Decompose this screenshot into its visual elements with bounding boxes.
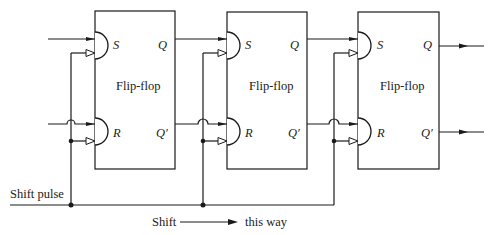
flip-flop-2: S Q Flip-flop R Q′	[227, 12, 307, 169]
flip-flop-1: S Q Flip-flop R Q′	[95, 11, 175, 169]
arrow-head-icon	[349, 122, 358, 126]
q-bar-label: Q′	[421, 126, 433, 140]
arrow-head-icon	[459, 44, 468, 49]
shift-direction-right-label: this way	[245, 215, 288, 229]
arrow-head-icon	[459, 130, 468, 135]
junction-dot	[201, 203, 206, 208]
arrow-head-icon	[218, 122, 227, 126]
set-label: S	[113, 38, 120, 52]
arrow-head-icon	[349, 37, 358, 41]
right-arrow-icon	[228, 219, 238, 225]
junction-dot	[69, 203, 74, 208]
final-outputs	[439, 44, 484, 135]
set-label: S	[245, 38, 252, 52]
shift-pulse-label: Shift pulse	[10, 187, 64, 201]
shift-direction-legend: Shift this way	[152, 215, 288, 229]
open-arrow-icon	[349, 138, 358, 145]
open-arrow-icon	[218, 138, 227, 145]
shift-direction-left-label: Shift	[152, 215, 177, 229]
q-label: Q	[290, 38, 299, 52]
flip-flop-3: S Q Flip-flop R Q′	[358, 12, 439, 169]
q-bar-label: Q′	[288, 126, 300, 140]
arrow-head-icon	[218, 37, 227, 41]
junction-dot	[201, 139, 206, 144]
flip-flop-label: Flip-flop	[249, 79, 293, 93]
flip-flop-label: Flip-flop	[116, 79, 160, 93]
reset-label: R	[376, 126, 385, 140]
q-label: Q	[423, 38, 432, 52]
open-arrow-icon	[86, 50, 95, 57]
q-bar-label: Q′	[156, 126, 168, 140]
open-arrow-icon	[86, 138, 95, 145]
arrow-head-icon	[86, 122, 95, 126]
q-label: Q	[158, 38, 167, 52]
shift-register-diagram: S Q Flip-flop R Q′ S Q Flip-flop R Q′ S …	[0, 0, 492, 235]
open-arrow-icon	[349, 50, 358, 57]
junction-dot	[332, 139, 337, 144]
open-arrow-icon	[218, 50, 227, 57]
reset-label: R	[112, 126, 121, 140]
reset-label: R	[244, 126, 253, 140]
arrow-head-icon	[86, 37, 95, 41]
set-label: S	[377, 38, 384, 52]
flip-flop-label: Flip-flop	[380, 79, 424, 93]
junction-dot	[69, 139, 74, 144]
